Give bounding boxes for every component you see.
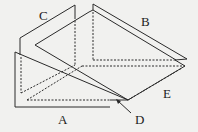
panel-c [20, 5, 82, 100]
label-b: B [141, 15, 150, 28]
label-e: E [163, 87, 171, 100]
label-d: D [135, 113, 144, 126]
panel-d [110, 99, 131, 113]
label-a: A [58, 113, 67, 126]
panel-drawing [0, 0, 198, 132]
panel-b [89, 4, 187, 66]
label-c: C [39, 9, 48, 22]
diagram-canvas: C B E A D [0, 0, 198, 132]
